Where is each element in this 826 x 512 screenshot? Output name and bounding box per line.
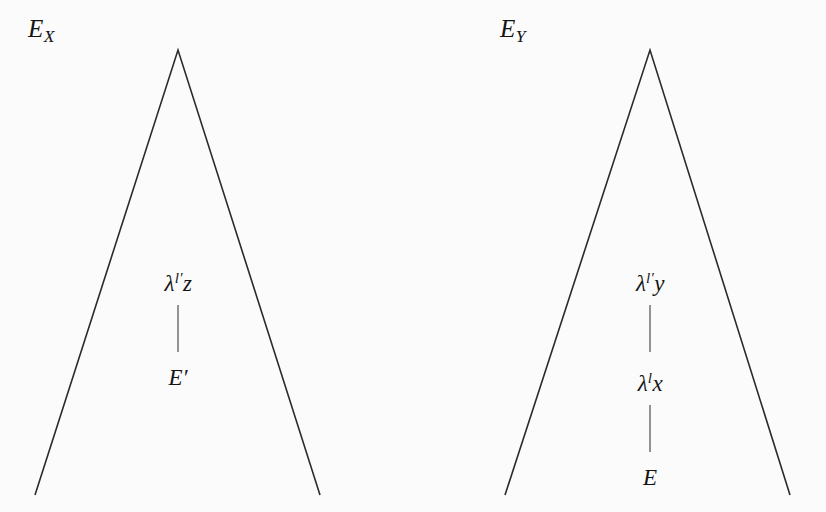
left-node-bottom-label: E′: [168, 366, 187, 389]
right-tree-label-base: E: [500, 15, 515, 42]
lambda-glyph-icon: λ: [638, 371, 648, 396]
right-node-middle-variable: x: [653, 371, 663, 396]
left-tree-label-subscript: X: [44, 26, 55, 46]
left-node-top-variable: z: [183, 271, 192, 296]
prime-mark: ′: [183, 365, 188, 390]
right-node-top-variable: y: [654, 271, 664, 296]
right-node-top-superscript: l′: [646, 269, 654, 286]
left-tree-label-base: E: [28, 15, 43, 42]
right-node-bottom-label: E: [643, 466, 657, 489]
lambda-glyph-icon: λ: [636, 271, 646, 296]
derivation-triangles: [0, 0, 826, 512]
right-connector-2: [650, 405, 651, 452]
right-node-middle-label: λlx: [638, 372, 663, 395]
left-node-top-superscript: l′: [175, 269, 183, 286]
figure-canvas: EX EY λl′z E′ λl′y λlx E: [0, 0, 826, 512]
lambda-glyph-icon: λ: [165, 271, 175, 296]
right-connector-1: [650, 305, 651, 352]
right-node-bottom-base: E: [643, 465, 657, 490]
left-tree-label: EX: [28, 16, 54, 41]
left-connector-1: [178, 305, 179, 352]
right-node-middle-superscript: l: [648, 369, 653, 386]
left-node-bottom-base: E: [168, 365, 182, 390]
right-node-top-label: λl′y: [636, 272, 664, 295]
left-node-top-label: λl′z: [165, 272, 192, 295]
right-tree-label-subscript: Y: [516, 26, 526, 46]
right-tree-label: EY: [500, 16, 525, 41]
